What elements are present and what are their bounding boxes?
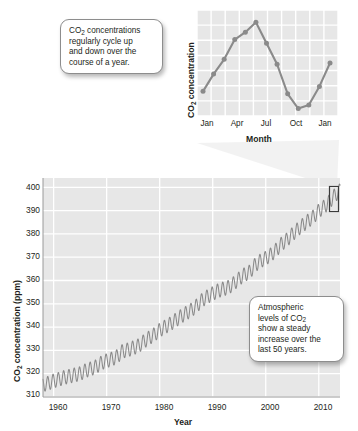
inset-xtick-oct: Oct bbox=[281, 119, 311, 128]
main-ytick-340: 340 bbox=[12, 320, 40, 330]
trend-callout-line2-sub: 2 bbox=[303, 316, 307, 323]
main-xtick-2000: 2000 bbox=[252, 402, 288, 412]
chart-canvas bbox=[0, 0, 358, 431]
trend-callout-line5: last 50 years. bbox=[258, 345, 307, 354]
inset-y-axis-label-post: concentration bbox=[186, 42, 196, 101]
inset-data-point bbox=[222, 57, 227, 62]
main-ytick-310: 310 bbox=[12, 389, 40, 399]
inset-xtick-jul: Jul bbox=[251, 119, 281, 128]
inset-y-axis-label-pre: CO bbox=[186, 105, 196, 118]
main-xtick-1960: 1960 bbox=[40, 402, 76, 412]
cycle-callout-line4: course of a year. bbox=[69, 58, 130, 67]
main-ytick-400: 400 bbox=[12, 182, 40, 192]
main-xtick-1970: 1970 bbox=[93, 402, 129, 412]
main-ytick-370: 370 bbox=[12, 251, 40, 261]
inset-data-point bbox=[306, 102, 311, 107]
trend-callout: Atmospheric levels of CO2 show a steady … bbox=[249, 296, 344, 362]
main-x-axis-label: Year bbox=[174, 417, 192, 427]
inset-data-point bbox=[285, 91, 290, 96]
main-xtick-2010: 2010 bbox=[305, 402, 341, 412]
cycle-callout-line3: and down over the bbox=[69, 47, 136, 56]
cycle-callout-line2: regularly cycle up bbox=[69, 37, 133, 46]
cycle-callout-line1-pre: CO bbox=[69, 26, 81, 35]
inset-data-point bbox=[232, 37, 237, 42]
inset-data-point bbox=[243, 30, 248, 35]
inset-xtick-jan-end: Jan bbox=[310, 119, 340, 128]
main-ytick-380: 380 bbox=[12, 228, 40, 238]
inset-xtick-jan-start: Jan bbox=[192, 119, 222, 128]
inset-y-axis-label-sub: 2 bbox=[190, 102, 197, 106]
cycle-callout-line1-post: concentrations bbox=[85, 26, 141, 35]
inset-xtick-apr: Apr bbox=[222, 119, 252, 128]
trend-callout-line1: Atmospheric bbox=[258, 303, 304, 312]
main-ytick-320: 320 bbox=[12, 366, 40, 376]
trend-callout-line2-pre: levels of CO bbox=[258, 314, 303, 323]
main-xtick-1990: 1990 bbox=[199, 402, 235, 412]
trend-callout-line3: show a steady bbox=[258, 324, 310, 333]
inset-data-point bbox=[275, 62, 280, 67]
main-ytick-390: 390 bbox=[12, 205, 40, 215]
inset-data-point bbox=[296, 106, 301, 111]
trend-callout-line4: increase over the bbox=[258, 335, 321, 344]
inset-x-axis-label: Month bbox=[246, 134, 272, 144]
co2-concentration-figure: CO2 concentration Jan Apr Jul Oct Jan Mo… bbox=[0, 0, 358, 431]
main-ytick-360: 360 bbox=[12, 274, 40, 284]
cycle-callout: CO2 concentrations regularly cycle up an… bbox=[60, 19, 163, 74]
inset-data-point bbox=[264, 41, 269, 46]
inset-data-point bbox=[211, 72, 216, 77]
inset-y-axis-label: CO2 concentration bbox=[186, 42, 196, 118]
main-ytick-330: 330 bbox=[12, 343, 40, 353]
inset-data-point bbox=[253, 20, 258, 25]
inset-data-point bbox=[328, 61, 333, 66]
inset-data-point bbox=[317, 84, 322, 89]
main-xtick-1980: 1980 bbox=[146, 402, 182, 412]
inset-data-point bbox=[201, 89, 206, 94]
main-ytick-350: 350 bbox=[12, 297, 40, 307]
cycle-callout-line1-sub: 2 bbox=[81, 29, 85, 36]
